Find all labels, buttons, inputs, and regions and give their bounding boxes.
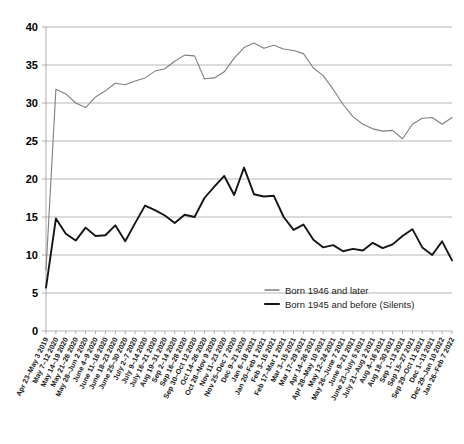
y-axis-tick-label: 10	[26, 249, 38, 261]
y-axis-tick-label: 30	[26, 97, 38, 109]
y-axis-labels: 0510152025303540	[26, 21, 46, 337]
series-line-born-1946-and-later	[46, 43, 452, 270]
y-axis-tick-label: 20	[26, 173, 38, 185]
y-axis-tick-label: 25	[26, 135, 38, 147]
line-chart: 0510152025303540 Apr 23–May 3 2019May 7–…	[0, 0, 464, 444]
legend: Born 1946 and laterBorn 1945 and before …	[265, 285, 414, 310]
y-axis-tick-label: 40	[26, 21, 38, 33]
chart-container: 0510152025303540 Apr 23–May 3 2019May 7–…	[0, 0, 464, 444]
series-line-born-1945-and-before	[46, 168, 452, 288]
y-axis-tick-label: 35	[26, 59, 38, 71]
legend-label: Born 1946 and later	[285, 285, 368, 296]
x-axis-labels: Apr 23–May 3 2019May 7–12 2020May 14–19 …	[14, 331, 456, 402]
data-series	[46, 43, 452, 288]
y-axis-tick-label: 5	[32, 287, 38, 299]
y-axis-tick-label: 15	[26, 211, 38, 223]
legend-label: Born 1945 and before (Silents)	[285, 299, 414, 310]
y-axis-tick-label: 0	[32, 325, 38, 337]
